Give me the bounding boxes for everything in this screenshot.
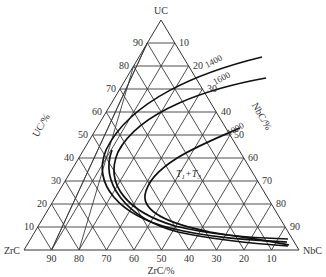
svg-text:30: 30 <box>212 253 222 264</box>
svg-text:20: 20 <box>37 198 47 209</box>
right-axis-title: NbC/% <box>250 101 275 132</box>
svg-text:90: 90 <box>133 37 143 48</box>
svg-text:80: 80 <box>276 198 286 209</box>
vertex-nbc-label: NbC <box>303 245 322 256</box>
right-axis-ticks: 10 20 30 40 50 60 70 80 90 <box>179 37 300 232</box>
svg-text:60: 60 <box>248 152 258 163</box>
svg-text:20: 20 <box>239 253 249 264</box>
left-axis-title: UC/% <box>30 112 52 139</box>
svg-text:50: 50 <box>78 129 88 140</box>
svg-text:30: 30 <box>51 175 61 186</box>
ternary-diagram: UC ZrC NbC 90 80 70 60 50 40 30 20 10 10… <box>0 0 326 277</box>
svg-text:50: 50 <box>157 253 167 264</box>
svg-text:70: 70 <box>102 253 112 264</box>
grid-lines-diagonal <box>38 43 286 250</box>
svg-text:80: 80 <box>74 253 84 264</box>
svg-text:80: 80 <box>119 60 129 71</box>
grid-lines <box>38 43 286 250</box>
svg-text:10: 10 <box>267 253 277 264</box>
bottom-axis-ticks: 90 80 70 60 50 40 30 20 10 <box>47 253 277 264</box>
svg-text:10: 10 <box>179 37 189 48</box>
svg-text:60: 60 <box>92 106 102 117</box>
svg-text:60: 60 <box>129 253 139 264</box>
vertex-uc-label: UC <box>154 5 168 16</box>
svg-text:70: 70 <box>262 175 272 186</box>
isotherm-1400-label: 1400 <box>203 52 224 70</box>
svg-text:20: 20 <box>193 60 203 71</box>
svg-text:40: 40 <box>64 152 74 163</box>
svg-text:10: 10 <box>24 221 34 232</box>
region-label-t1-t3: T1+T3 <box>176 168 201 181</box>
svg-text:90: 90 <box>47 253 57 264</box>
svg-text:40: 40 <box>221 106 231 117</box>
svg-text:40: 40 <box>184 253 194 264</box>
svg-text:70: 70 <box>106 83 116 94</box>
vertex-zrc-label: ZrC <box>4 245 20 256</box>
svg-text:90: 90 <box>290 221 300 232</box>
bottom-axis-title: ZrC/% <box>147 265 174 276</box>
isotherm-1600-label: 1600 <box>211 69 232 87</box>
